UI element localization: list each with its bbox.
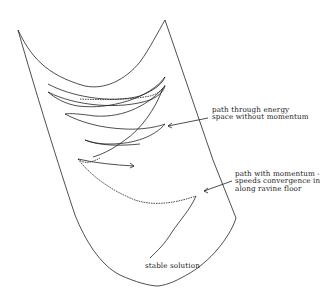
no-momentum-label: path through energy space without moment… [212, 106, 309, 121]
arrow-momentum [204, 181, 232, 193]
momentum-label: path with momentum - speeds convergence … [235, 170, 320, 192]
no-momentum-label-line2: space without momentum [212, 112, 309, 121]
arrow-no-momentum [168, 118, 208, 128]
path-without-momentum [48, 77, 165, 168]
momentum-label-line3: along ravine floor [235, 184, 302, 193]
stable-solution-label: stable solution [145, 262, 200, 269]
energy-surface [18, 20, 236, 286]
energy-ravine-diagram: path through energy space without moment… [0, 0, 326, 298]
path-with-momentum [78, 85, 196, 258]
diagram-canvas [0, 0, 326, 298]
